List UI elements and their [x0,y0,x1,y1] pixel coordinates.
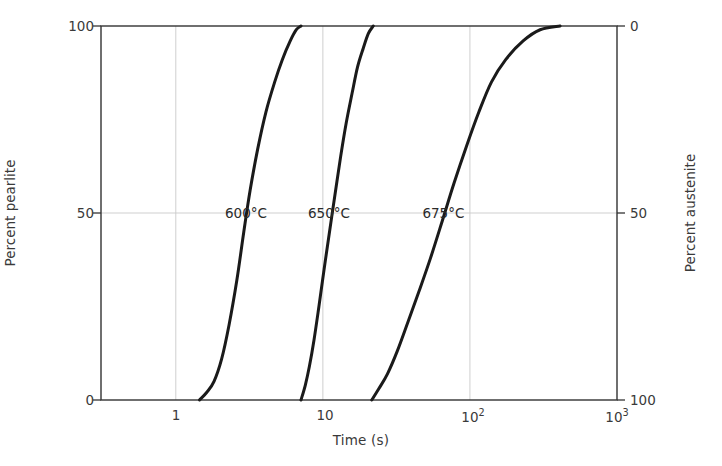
x-axis-title: Time (s) [333,432,390,448]
curve-label-600c: 600°C [225,205,267,221]
xtick-100: 102 [461,407,484,425]
chart-figure: 100 50 0 0 50 100 1 10 102 103 Percent p… [0,0,722,466]
xtick-10: 10 [316,407,333,423]
y-axis-left-title: Percent pearlite [2,133,18,293]
gridlines [101,26,617,400]
chart-canvas [0,0,722,466]
xtick-1000-exponent: 3 [623,407,629,418]
ytick-left-0: 0 [52,392,94,408]
curve-label-675c: 675°C [422,205,464,221]
xtick-100-exponent: 2 [479,407,485,418]
ytick-left-100: 100 [52,18,94,34]
curve-label-650c: 650°C [308,205,350,221]
xtick-1000: 103 [605,407,628,425]
xtick-100-mantissa: 10 [461,409,478,425]
xtick-1000-mantissa: 10 [605,409,622,425]
ytick-right-100: 100 [630,392,676,408]
xtick-1: 1 [172,407,181,423]
y-axis-right-title: Percent austenite [682,133,698,293]
ytick-left-50: 50 [52,205,94,221]
ytick-right-0: 0 [630,18,676,34]
ytick-right-50: 50 [630,205,676,221]
